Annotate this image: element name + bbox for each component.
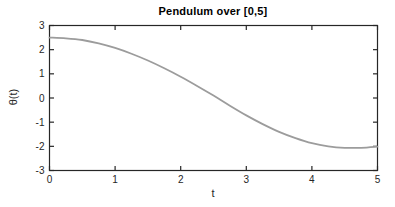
y-tick-label: 2 <box>39 44 45 55</box>
x-tick-label: 3 <box>244 174 250 185</box>
x-tick-label: 2 <box>178 174 184 185</box>
plot-box <box>50 26 378 171</box>
x-axis-label: t <box>49 187 377 199</box>
y-tick-label: -2 <box>36 141 45 152</box>
x-tick-label: 5 <box>375 174 381 185</box>
x-tick-label: 0 <box>47 174 53 185</box>
x-tick-label: 4 <box>309 174 315 185</box>
y-tick-label: 3 <box>39 20 45 31</box>
pendulum-curve <box>50 38 378 148</box>
plot-svg: 012345-3-2-10123 <box>0 0 395 207</box>
y-tick-label: -3 <box>36 165 45 176</box>
x-tick-label: 1 <box>112 174 118 185</box>
pendulum-figure: Pendulum over [0,5] θ(t) 012345-3-2-1012… <box>0 0 395 207</box>
y-tick-label: 0 <box>39 93 45 104</box>
y-tick-label: 1 <box>39 68 45 79</box>
y-tick-label: -1 <box>36 117 45 128</box>
